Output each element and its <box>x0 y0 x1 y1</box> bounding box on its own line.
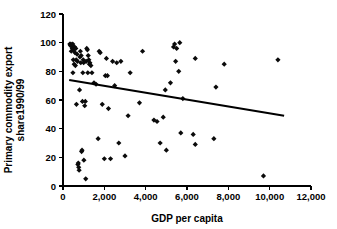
data-point <box>116 140 121 145</box>
data-point <box>176 69 181 74</box>
y-tick-label: 20 <box>45 152 56 163</box>
chart-canvas: Primary commodity export share1990/99 02… <box>0 0 337 229</box>
y-tick-label: 120 <box>40 9 56 20</box>
data-point <box>86 53 91 58</box>
data-point <box>213 85 218 90</box>
data-point <box>158 140 163 145</box>
y-tick-label: 60 <box>45 95 56 106</box>
data-point <box>128 70 133 75</box>
data-point <box>122 153 127 158</box>
data-point <box>178 130 183 135</box>
data-point <box>126 113 131 118</box>
data-point <box>83 99 88 104</box>
data-point <box>261 173 266 178</box>
data-point <box>81 158 86 163</box>
y-tick-label: 0 <box>51 181 56 192</box>
x-tick-group: 02,0004,0006,0008,00010,00012,000 <box>60 186 325 202</box>
data-point <box>106 106 111 111</box>
x-axis-title: GDP per capita <box>151 213 223 224</box>
data-point <box>118 59 123 64</box>
data-point <box>114 60 119 65</box>
data-point <box>193 142 198 147</box>
data-point <box>173 59 178 64</box>
data-point <box>177 40 182 45</box>
x-tick-label: 12,000 <box>296 191 325 202</box>
x-tick-label: 8,000 <box>216 191 240 202</box>
y-tick-label: 40 <box>45 123 56 134</box>
y-axis-title-line1: Primary commodity export <box>3 46 14 173</box>
data-point <box>74 102 79 107</box>
data-point <box>140 49 145 54</box>
trend-line <box>69 80 284 116</box>
data-point <box>163 87 168 92</box>
data-point <box>191 132 196 137</box>
x-tick-label: 2,000 <box>92 191 116 202</box>
y-axis-title: Primary commodity export share1990/99 <box>3 46 26 173</box>
data-point <box>96 136 101 141</box>
x-tick-label: 0 <box>60 191 65 202</box>
data-point <box>77 87 82 92</box>
data-point <box>211 136 216 141</box>
data-point <box>164 148 169 153</box>
data-point <box>89 70 94 75</box>
data-point <box>80 70 85 75</box>
data-point <box>137 100 142 105</box>
data-point <box>70 70 75 75</box>
data-point <box>108 156 113 161</box>
x-tick-label: 6,000 <box>175 191 199 202</box>
y-tick-label: 100 <box>40 37 56 48</box>
data-point <box>102 156 107 161</box>
data-point <box>83 176 88 181</box>
data-point <box>104 56 109 61</box>
data-point <box>100 102 105 107</box>
y-tick-label: 80 <box>45 66 56 77</box>
data-point <box>275 57 280 62</box>
data-point <box>168 80 173 85</box>
x-tick-label: 4,000 <box>134 191 158 202</box>
scatter-chart: Primary commodity export share1990/99 02… <box>0 0 337 229</box>
data-point <box>82 103 87 108</box>
data-point <box>193 56 198 61</box>
data-point <box>161 115 166 120</box>
x-tick-label: 10,000 <box>255 191 284 202</box>
y-tick-group: 020406080100120 <box>40 9 63 192</box>
data-point <box>222 62 227 67</box>
data-point <box>110 59 115 64</box>
y-axis-title-line2: share1990/99 <box>15 78 26 141</box>
